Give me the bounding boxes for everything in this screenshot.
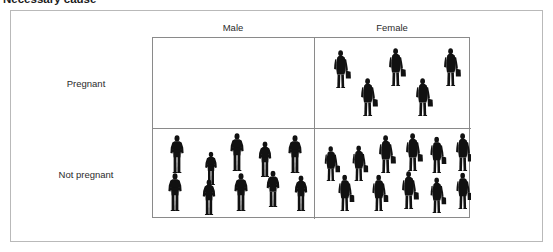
row-label-pregnant: Pregnant bbox=[26, 78, 146, 89]
page-heading-text: Necessary cause bbox=[3, 0, 223, 6]
row-label-not-pregnant: Not pregnant bbox=[26, 169, 146, 180]
person-female-icon bbox=[455, 133, 471, 171]
person-male-icon bbox=[233, 173, 249, 211]
person-female-icon bbox=[337, 175, 354, 211]
cell-not-pregnant-male bbox=[153, 128, 314, 219]
person-female-icon bbox=[401, 171, 419, 209]
person-female-icon bbox=[388, 48, 406, 86]
cell-pregnant-male bbox=[153, 38, 314, 128]
person-female-icon bbox=[405, 133, 423, 171]
person-female-icon bbox=[360, 78, 378, 116]
column-header-female: Female bbox=[314, 22, 470, 33]
person-female-icon bbox=[415, 78, 433, 116]
person-female-icon bbox=[455, 173, 471, 209]
person-female-icon bbox=[429, 137, 446, 173]
contingency-table bbox=[152, 37, 470, 218]
person-male-icon bbox=[201, 179, 216, 215]
person-female-icon bbox=[371, 175, 388, 211]
person-male-icon bbox=[169, 135, 185, 173]
person-male-icon bbox=[293, 175, 308, 211]
person-female-icon bbox=[443, 48, 461, 86]
page-heading: Necessary cause bbox=[3, 0, 223, 7]
person-male-icon bbox=[229, 133, 245, 171]
person-male-icon bbox=[167, 173, 183, 211]
cell-pregnant-female bbox=[314, 38, 471, 128]
person-male-icon bbox=[265, 171, 280, 207]
person-female-icon bbox=[378, 135, 396, 173]
person-male-icon bbox=[287, 135, 303, 173]
column-header-male: Male bbox=[152, 22, 314, 33]
cell-not-pregnant-female bbox=[314, 128, 471, 219]
person-female-icon bbox=[333, 50, 351, 88]
person-female-icon bbox=[430, 177, 447, 213]
